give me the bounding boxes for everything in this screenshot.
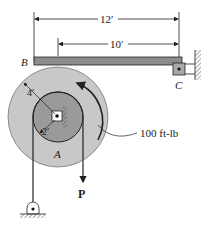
center-support-hatch (62, 106, 67, 128)
dimension-12ft: 12′ (34, 12, 179, 62)
beam-bc (34, 57, 182, 65)
force-p-label: P (78, 187, 85, 201)
dimension-10ft: 10′ (58, 37, 178, 56)
dimension-10ft-label: 10′ (110, 38, 123, 50)
radius-4ft-label: 4′ (27, 87, 34, 98)
moment-label: 100 ft-lb (140, 127, 179, 139)
pin-c-dot (177, 67, 180, 70)
point-c-label: C (175, 79, 183, 91)
ground-pin-support (20, 202, 46, 218)
radius-2ft-label: 2′ (42, 126, 49, 137)
mechanics-diagram: 12′ 10′ B C 4′ 2′ A (0, 0, 215, 229)
center-pin-dot (55, 114, 59, 118)
point-b-label: B (21, 56, 28, 68)
dimension-12ft-label: 12′ (100, 13, 113, 25)
point-a-label: A (53, 148, 61, 160)
